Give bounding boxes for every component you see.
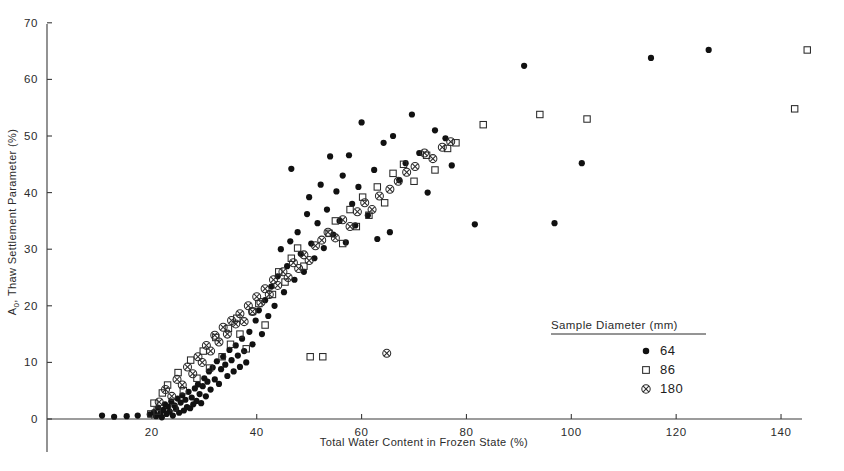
data-point-64 <box>235 353 241 359</box>
y-axis-title-rest: , Thaw Settlement Parameter (%) <box>6 129 18 303</box>
data-point-64 <box>212 376 218 382</box>
data-point-180 <box>324 228 332 236</box>
data-point-64 <box>243 359 249 365</box>
legend-marker-86 <box>643 367 650 374</box>
scatter-plot-figure: 010203040506070 20406080100120140 Total … <box>0 0 844 471</box>
svg-text:A0, Thaw Settlement Parameter: A0, Thaw Settlement Parameter (%) <box>6 129 21 315</box>
legend-label-64: 64 <box>660 343 675 358</box>
legend-entry-86[interactable]: 86 <box>643 362 676 377</box>
data-point-64 <box>196 391 202 397</box>
data-point-64 <box>306 194 312 200</box>
data-point-64 <box>295 229 301 235</box>
data-point-64 <box>124 413 130 419</box>
data-points <box>99 47 810 421</box>
y-tick-label: 30 <box>24 243 38 255</box>
data-point-64 <box>387 229 393 235</box>
data-point-64 <box>304 211 310 217</box>
data-point-180 <box>411 163 419 171</box>
data-point-64 <box>265 313 271 319</box>
data-point-64 <box>327 153 333 159</box>
data-point-180 <box>295 264 303 272</box>
data-point-180 <box>375 192 383 200</box>
data-point-180 <box>447 138 455 146</box>
data-point-180 <box>244 302 252 310</box>
data-point-64 <box>204 379 210 385</box>
y-tick-label: 60 <box>24 73 38 85</box>
data-point-180 <box>207 347 215 355</box>
x-tick-label: 40 <box>250 426 264 438</box>
data-point-180 <box>261 285 269 293</box>
data-point-64 <box>318 182 324 188</box>
legend-label-180: 180 <box>660 381 683 396</box>
data-point-64 <box>409 111 415 117</box>
data-point-64 <box>374 236 380 242</box>
data-point-64 <box>207 386 213 392</box>
data-point-64 <box>371 167 377 173</box>
data-point-64 <box>472 221 478 227</box>
y-axis-title: A0, Thaw Settlement Parameter (%) <box>6 129 21 315</box>
data-point-64 <box>579 160 585 166</box>
data-point-86 <box>480 121 486 127</box>
data-point-64 <box>253 317 259 323</box>
data-point-86 <box>294 245 300 251</box>
data-point-180 <box>198 358 206 366</box>
y-tick-label: 70 <box>24 17 38 29</box>
legend-marker-180 <box>642 385 650 393</box>
data-point-86 <box>347 206 353 212</box>
legend-entries: 6486180 <box>642 343 683 396</box>
legend-title: Sample Diameter (mm) <box>551 319 678 331</box>
data-point-64 <box>288 166 294 172</box>
data-point-86 <box>390 170 396 176</box>
legend-label-86: 86 <box>660 362 675 377</box>
data-point-86 <box>432 167 438 173</box>
chart-legend: Sample Diameter (mm) 6486180 <box>551 319 706 396</box>
data-point-64 <box>182 397 188 403</box>
data-point-64 <box>521 63 527 69</box>
data-point-64 <box>278 246 284 252</box>
data-point-180 <box>184 363 192 371</box>
x-tick-label: 120 <box>666 426 687 438</box>
data-point-86 <box>307 354 313 360</box>
data-point-86 <box>374 184 380 190</box>
data-point-86 <box>227 341 233 347</box>
legend-marker-64 <box>643 348 650 355</box>
data-point-86 <box>187 357 193 363</box>
data-point-64 <box>239 336 245 342</box>
y-tick-label: 10 <box>24 356 38 368</box>
data-point-86 <box>537 111 543 117</box>
legend-entry-64[interactable]: 64 <box>643 343 676 358</box>
data-point-180 <box>386 185 394 193</box>
data-point-64 <box>346 152 352 158</box>
data-point-64 <box>218 366 224 372</box>
x-tick-label: 140 <box>771 426 792 438</box>
y-axis-ticks: 010203040506070 <box>24 17 52 425</box>
data-point-180 <box>270 276 278 284</box>
data-point-64 <box>99 413 105 419</box>
data-point-64 <box>259 331 265 337</box>
data-point-180 <box>383 349 391 357</box>
x-tick-label: 100 <box>561 426 582 438</box>
data-point-64 <box>135 413 141 419</box>
y-tick-label: 20 <box>24 300 38 312</box>
data-point-180 <box>194 353 202 361</box>
data-point-64 <box>648 55 654 61</box>
x-tick-label: 20 <box>145 426 159 438</box>
data-point-64 <box>111 414 117 420</box>
axes <box>47 24 802 452</box>
legend-entry-180[interactable]: 180 <box>642 381 683 396</box>
data-point-64 <box>249 341 255 347</box>
x-axis-ticks: 20406080100120140 <box>145 414 792 438</box>
data-point-64 <box>340 173 346 179</box>
data-point-64 <box>324 206 330 212</box>
data-point-64 <box>228 357 234 363</box>
data-point-64 <box>390 133 396 139</box>
data-point-180 <box>189 370 197 378</box>
data-point-64 <box>551 220 557 226</box>
data-point-86 <box>411 178 417 184</box>
data-point-64 <box>246 329 252 335</box>
y-tick-label: 50 <box>24 130 38 142</box>
data-point-64 <box>200 383 206 389</box>
data-point-64 <box>170 413 176 419</box>
data-point-86 <box>791 106 797 112</box>
data-point-180 <box>353 208 361 216</box>
